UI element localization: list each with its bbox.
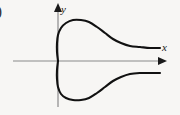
upper-branch-curve [57, 20, 160, 61]
figure-part-label: ) [0, 4, 2, 19]
curve-figure: y x ) [0, 0, 180, 115]
y-axis-label: y [61, 4, 66, 15]
x-axis-label: x [162, 42, 167, 53]
lower-branch-curve [57, 61, 160, 100]
x-axis-arrowhead [158, 57, 167, 65]
curve-plot-svg [0, 0, 180, 115]
